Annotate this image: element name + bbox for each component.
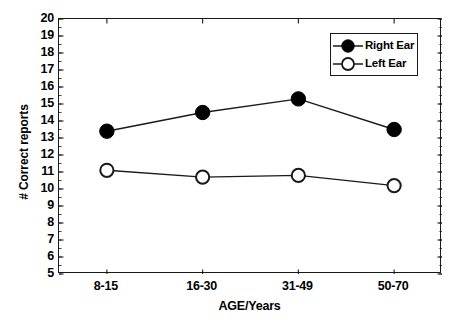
chart-figure: 201918171615141312111098765 # Correct re… <box>0 0 459 322</box>
y-tick-label: 5 <box>22 267 54 280</box>
x-tick-label: 31-49 <box>262 280 332 293</box>
chart-legend: Right Ear Left Ear <box>330 33 418 76</box>
filled-circle-icon <box>331 37 365 55</box>
data-point-left-ear <box>196 171 209 184</box>
legend-item-right-ear: Right Ear <box>331 37 419 55</box>
data-point-right-ear <box>195 105 209 119</box>
y-axis-title: # Correct reports <box>17 72 31 232</box>
x-tick-label: 50-70 <box>358 280 428 293</box>
legend-label-left-ear: Left Ear <box>365 58 406 70</box>
legend-label-right-ear: Right Ear <box>365 40 414 52</box>
data-point-left-ear <box>292 169 305 182</box>
data-point-left-ear <box>100 164 113 177</box>
series-line-left-ear <box>107 170 394 185</box>
x-tick-label: 16-30 <box>167 280 237 293</box>
x-axis-tick-labels: 8-1516-3031-4950-70 <box>58 280 441 296</box>
data-point-left-ear <box>388 179 401 192</box>
data-point-right-ear <box>291 92 305 106</box>
legend-item-left-ear: Left Ear <box>331 55 419 73</box>
y-tick-label: 19 <box>22 29 54 42</box>
open-circle-icon <box>331 55 365 73</box>
y-tick-label: 18 <box>22 46 54 59</box>
y-tick-label: 20 <box>22 12 54 25</box>
data-point-right-ear <box>387 122 401 136</box>
series-line-right-ear <box>107 99 394 131</box>
y-tick-label: 6 <box>22 250 54 263</box>
x-axis-title: AGE/Years <box>58 299 441 313</box>
y-tick-label: 7 <box>22 233 54 246</box>
data-point-right-ear <box>100 124 114 138</box>
x-tick-label: 8-15 <box>71 280 141 293</box>
